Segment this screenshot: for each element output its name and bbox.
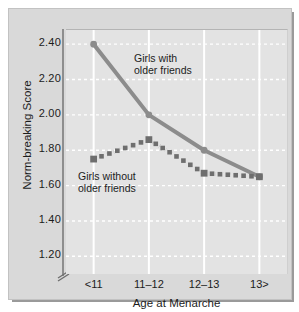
y-tick-label: 1.40 [15,213,61,225]
annotation-girls-with-older-friends: Girls with older friends [134,52,192,76]
x-axis-tick-labels: <11 11–12 12–13 13> [66,278,287,294]
x-tick-label: <11 [85,278,103,290]
x-tick-label: 13> [250,278,269,290]
x-tick-label: 12–13 [189,278,220,290]
y-axis-spine [62,29,64,276]
y-axis-tick-labels: 2.40 2.20 2.00 1.80 1.60 1.40 1.20 [11,9,61,299]
x-axis-title: Age at Menarche [66,297,287,309]
plot-area: Girls with older friends Girls without o… [66,29,288,274]
y-tick-label: 2.20 [15,72,61,84]
annotation-girls-without-older-friends: Girls without older friends [78,170,136,194]
y-tick-label: 1.20 [15,248,61,260]
y-tick-label: 1.60 [15,178,61,190]
y-tick-label: 1.80 [15,142,61,154]
chart-panel: Norm-breaking Score 2.40 2.20 2.00 1.80 … [8,8,292,300]
chart-figure: Norm-breaking Score 2.40 2.20 2.00 1.80 … [0,0,299,312]
y-tick-label: 2.40 [15,36,61,48]
y-tick-label: 2.00 [15,107,61,119]
x-tick-label: 11–12 [134,278,164,290]
